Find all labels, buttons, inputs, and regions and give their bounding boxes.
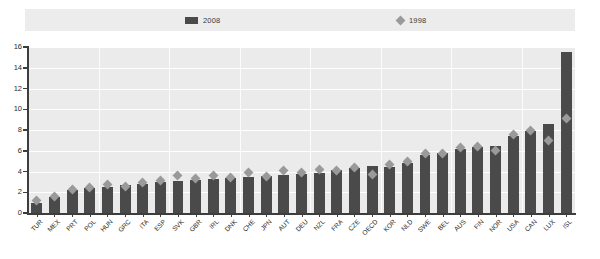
x-tick xyxy=(266,214,267,217)
bar-ita xyxy=(137,184,148,213)
legend-label-1998: 1998 xyxy=(409,16,427,25)
y-label-12: 12 xyxy=(0,84,22,93)
x-tick xyxy=(443,214,444,217)
bar-deu xyxy=(296,174,307,213)
gridline-vertical xyxy=(381,47,382,213)
x-tick xyxy=(407,214,408,217)
x-tick xyxy=(460,214,461,217)
y-label-2: 2 xyxy=(0,187,22,196)
x-tick xyxy=(213,214,214,217)
x-tick xyxy=(160,214,161,217)
x-tick xyxy=(37,214,38,217)
legend-diamond-swatch-icon xyxy=(396,15,406,25)
y-tick xyxy=(23,109,28,111)
x-tick xyxy=(337,214,338,217)
gridline-horizontal xyxy=(28,47,575,48)
y-label-10: 10 xyxy=(0,104,22,113)
bar-esp xyxy=(155,182,166,213)
bar-nld xyxy=(402,163,413,213)
x-tick xyxy=(566,214,567,217)
x-tick xyxy=(143,214,144,217)
bar-can xyxy=(525,131,536,213)
x-tick xyxy=(513,214,514,217)
y-label-6: 6 xyxy=(0,146,22,155)
x-tick xyxy=(354,214,355,217)
chart-legend: 2008 1998 xyxy=(25,9,575,31)
x-tick xyxy=(319,214,320,217)
y-label-8: 8 xyxy=(0,125,22,134)
x-tick xyxy=(231,214,232,217)
gridline-horizontal xyxy=(28,109,575,110)
x-tick xyxy=(496,214,497,217)
gridline-vertical xyxy=(240,47,241,213)
bar-swe xyxy=(420,155,431,213)
y-tick xyxy=(23,46,28,48)
y-tick xyxy=(23,67,28,69)
legend-item-1998: 1998 xyxy=(397,9,427,31)
bar-aut xyxy=(278,175,289,213)
x-tick xyxy=(90,214,91,217)
y-tick xyxy=(23,212,28,214)
gridline-vertical xyxy=(522,47,523,213)
x-tick xyxy=(549,214,550,217)
x-tick xyxy=(531,214,532,217)
x-tick xyxy=(54,214,55,217)
x-tick xyxy=(478,214,479,217)
x-tick xyxy=(125,214,126,217)
gridline-vertical xyxy=(169,47,170,213)
bar-bel xyxy=(437,153,448,213)
y-tick xyxy=(23,129,28,131)
legend-item-2008: 2008 xyxy=(185,9,221,31)
bar-svk xyxy=(173,181,184,213)
legend-bar-swatch-icon xyxy=(185,17,198,24)
gridline-horizontal xyxy=(28,130,575,131)
x-tick xyxy=(372,214,373,217)
bar-isl xyxy=(561,52,572,213)
y-tick xyxy=(23,88,28,90)
bar-gbr xyxy=(190,180,201,213)
x-tick xyxy=(390,214,391,217)
bar-nor xyxy=(490,146,501,213)
x-tick xyxy=(425,214,426,217)
y-label-16: 16 xyxy=(0,42,22,51)
x-tick xyxy=(107,214,108,217)
legend-label-2008: 2008 xyxy=(203,16,221,25)
bar-nzl xyxy=(314,173,325,213)
bar-che xyxy=(243,177,254,213)
y-tick xyxy=(23,192,28,194)
y-tick xyxy=(23,171,28,173)
x-tick xyxy=(178,214,179,217)
x-tick xyxy=(284,214,285,217)
y-label-14: 14 xyxy=(0,63,22,72)
gridline-horizontal xyxy=(28,68,575,69)
gridline-vertical xyxy=(451,47,452,213)
gridline-vertical xyxy=(99,47,100,213)
bar-fra xyxy=(331,170,342,213)
y-tick xyxy=(23,150,28,152)
bar-hun xyxy=(102,187,113,213)
plot-area xyxy=(28,47,575,213)
x-tick xyxy=(196,214,197,217)
y-label-4: 4 xyxy=(0,167,22,176)
bar-irl xyxy=(208,179,219,213)
bar-dnk xyxy=(225,178,236,213)
bar-usa xyxy=(508,136,519,213)
x-tick xyxy=(72,214,73,217)
gridline-horizontal xyxy=(28,89,575,90)
chart-root: 2008 1998 0246810121416 TURMEXPRTPOLHUNG… xyxy=(0,0,600,259)
x-tick xyxy=(302,214,303,217)
y-label-0: 0 xyxy=(0,208,22,217)
bar-kor xyxy=(384,167,395,213)
bar-aus xyxy=(455,149,466,213)
bar-cze xyxy=(349,168,360,213)
x-tick xyxy=(249,214,250,217)
bar-fin xyxy=(472,147,483,213)
gridline-vertical xyxy=(310,47,311,213)
